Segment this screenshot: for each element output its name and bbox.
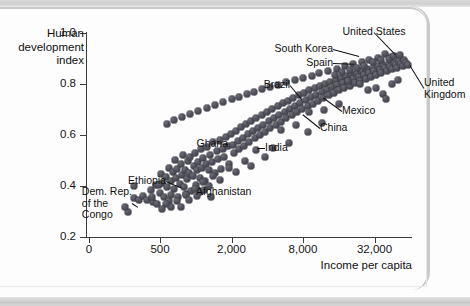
data-point xyxy=(153,200,160,207)
data-point xyxy=(308,72,315,79)
data-point xyxy=(186,197,193,204)
data-point xyxy=(218,165,225,172)
annotation-leader-line xyxy=(132,203,138,208)
data-point xyxy=(369,59,376,66)
data-point xyxy=(338,69,345,76)
data-point xyxy=(360,63,367,70)
data-point xyxy=(168,191,175,198)
x-axis-line xyxy=(86,237,412,238)
data-point xyxy=(225,165,232,172)
y-tick xyxy=(80,135,86,136)
data-point xyxy=(300,74,307,81)
annotation-label: Ethiopia xyxy=(128,175,166,187)
y-tick-label: 0.4 xyxy=(40,180,76,191)
annotation-label: Dem. Rep.of theCongo xyxy=(82,186,132,221)
annotation-label: South Korea xyxy=(275,43,333,55)
x-tick-label: 500 xyxy=(150,243,169,255)
data-point xyxy=(221,153,228,160)
annotation-leader-line xyxy=(333,49,359,57)
data-point xyxy=(220,99,227,106)
data-point xyxy=(149,193,156,200)
data-point xyxy=(163,120,170,127)
data-point xyxy=(187,110,194,117)
data-point xyxy=(344,77,351,84)
data-point xyxy=(233,168,240,175)
data-point xyxy=(356,81,363,88)
data-point xyxy=(316,70,323,77)
data-point xyxy=(306,109,313,116)
data-point xyxy=(179,114,186,121)
y-axis-title: Human development index xyxy=(12,27,84,68)
x-tick-label: 32,000 xyxy=(357,243,392,255)
data-point xyxy=(247,163,254,170)
y-tick xyxy=(80,84,86,85)
annotation-label: Brazil xyxy=(264,79,290,91)
data-point xyxy=(354,65,361,72)
data-point xyxy=(332,71,339,78)
data-point xyxy=(277,126,284,133)
annotation-label: Mexico xyxy=(342,105,375,117)
data-point xyxy=(293,121,300,128)
y-tick-label: 0.2 xyxy=(40,231,76,242)
x-tick-label: 2,000 xyxy=(217,243,246,255)
data-point xyxy=(377,56,384,63)
scatter-plot: 1.00.80.60.40.2 05002,0008,00032,000 Uni… xyxy=(0,0,470,306)
y-tick-label: 0.8 xyxy=(40,78,76,89)
annotation-label: Spain xyxy=(306,57,333,69)
x-tick-label: 8,000 xyxy=(289,243,318,255)
data-point xyxy=(228,96,235,103)
y-tick-label: 0.6 xyxy=(40,129,76,140)
annotation-label: UnitedKingdom xyxy=(424,77,465,100)
data-point xyxy=(394,77,401,84)
x-tick-label: 0 xyxy=(86,243,92,255)
data-point xyxy=(179,151,186,158)
data-point xyxy=(304,129,311,136)
annotation-label: Afghanistan xyxy=(196,186,251,198)
data-point xyxy=(211,101,218,108)
data-point xyxy=(291,77,298,84)
annotation-label: India xyxy=(265,142,288,154)
data-point xyxy=(171,117,178,124)
data-point xyxy=(195,107,202,114)
data-point xyxy=(243,91,250,98)
x-axis-title: Income per capita xyxy=(268,259,412,273)
data-point xyxy=(261,154,268,161)
data-point xyxy=(364,87,371,94)
data-point xyxy=(383,96,390,103)
annotation-leader-line xyxy=(410,66,425,89)
data-point xyxy=(204,104,211,111)
data-point xyxy=(396,52,403,59)
data-point xyxy=(181,183,188,190)
data-point xyxy=(373,84,380,91)
data-point xyxy=(177,203,184,210)
data-point xyxy=(347,66,354,73)
figure-page: 1.00.80.60.40.2 05002,0008,00032,000 Uni… xyxy=(0,0,470,306)
data-point xyxy=(235,93,242,100)
y-tick xyxy=(80,237,86,238)
data-point xyxy=(251,88,258,95)
data-point xyxy=(216,176,223,183)
data-point xyxy=(320,106,327,113)
annotation-leader-line xyxy=(257,148,265,149)
data-point xyxy=(159,206,166,213)
annotation-label: China xyxy=(320,122,347,134)
